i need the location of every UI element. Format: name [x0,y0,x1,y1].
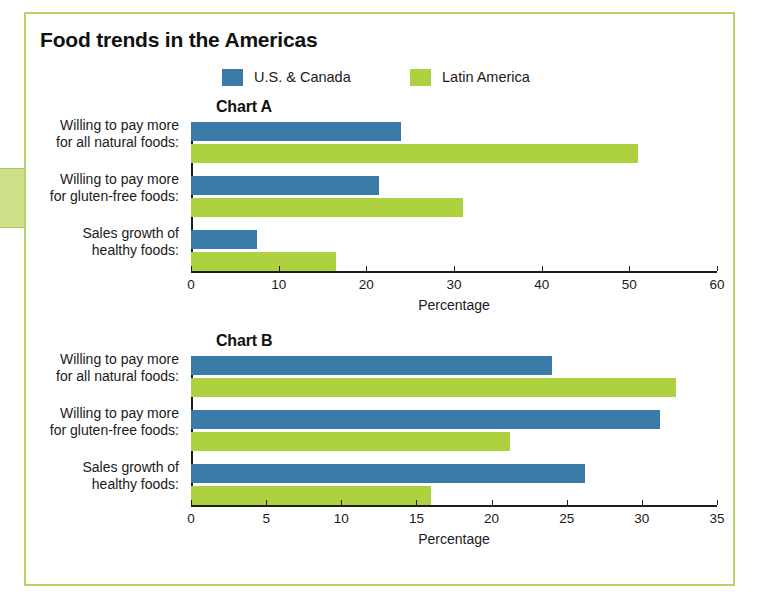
group-spacer [191,217,717,230]
bar-latin-america [191,144,638,163]
x-axis-title: Percentage [191,531,717,547]
x-axis-line [191,271,717,273]
group-spacer [191,163,717,176]
bar-latin-america [191,432,510,451]
bar-latin-america [191,486,431,505]
category-group: Willing to pay more for all natural food… [191,122,717,163]
x-axis-tick-label: 0 [187,511,195,526]
x-axis-tick-label: 35 [709,511,724,526]
x-axis-tick [717,500,718,505]
x-axis-tick [341,500,342,505]
chart-b-plot-area: Willing to pay more for all natural food… [191,356,717,505]
bar-us-canada [191,176,379,195]
x-axis-tick [416,500,417,505]
chart-b: Chart B Willing to pay more for all natu… [26,332,733,584]
x-axis-tick-label: 20 [484,511,499,526]
bar-us-canada [191,410,660,429]
page-title: Food trends in the Americas [40,28,317,52]
x-axis-tick-label: 15 [409,511,424,526]
figure-frame: Food trends in the Americas U.S. & Canad… [24,12,735,586]
x-axis-tick [266,500,267,505]
chart-b-title: Chart B [216,332,272,350]
category-group: Sales growth of healthy foods: [191,230,717,271]
x-axis-tick-label: 30 [634,511,649,526]
legend-label-us-canada: U.S. & Canada [254,69,351,85]
x-axis-tick [191,266,192,271]
bars-container: Willing to pay more for all natural food… [191,122,717,271]
x-axis-tick-label: 50 [622,277,637,292]
legend-item-us-canada: U.S. & Canada [222,66,351,88]
x-axis-title: Percentage [191,297,717,313]
category-label: Sales growth of healthy foods: [0,459,179,493]
chart-a-plot-area: Willing to pay more for all natural food… [191,122,717,271]
x-axis-tick [629,266,630,271]
category-group: Sales growth of healthy foods: [191,464,717,505]
bar-us-canada [191,230,257,249]
category-label: Willing to pay more for all natural food… [0,351,179,385]
category-label: Sales growth of healthy foods: [0,225,179,259]
bar-latin-america [191,378,676,397]
x-axis-tick [279,266,280,271]
chart-a: Chart A Willing to pay more for all natu… [26,98,733,344]
x-axis-tick-label: 40 [534,277,549,292]
x-axis-tick [542,266,543,271]
x-axis-tick-label: 60 [709,277,724,292]
x-axis-tick [717,266,718,271]
x-axis-tick-label: 30 [446,277,461,292]
category-group: Willing to pay more for all natural food… [191,356,717,397]
legend-item-latin-america: Latin America [410,66,530,88]
category-group: Willing to pay more for gluten-free food… [191,176,717,217]
chart-a-title: Chart A [216,98,272,116]
x-axis-tick-label: 10 [334,511,349,526]
group-spacer [191,397,717,410]
x-axis-tick [567,500,568,505]
bar-us-canada [191,464,585,483]
x-axis-tick-label: 10 [271,277,286,292]
x-axis-tick-label: 25 [559,511,574,526]
category-label: Willing to pay more for all natural food… [0,117,179,151]
x-axis-tick [454,266,455,271]
x-axis-tick-label: 0 [187,277,195,292]
x-axis-tick [492,500,493,505]
bars-container: Willing to pay more for all natural food… [191,356,717,505]
x-axis-tick-label: 5 [262,511,270,526]
bar-us-canada [191,122,401,141]
legend-swatch-us-canada [222,69,243,86]
category-label: Willing to pay more for gluten-free food… [0,405,179,439]
legend-swatch-latin-america [410,69,431,86]
x-axis-tick [366,266,367,271]
x-axis-line [191,505,717,507]
category-group: Willing to pay more for gluten-free food… [191,410,717,451]
x-axis-tick-label: 20 [359,277,374,292]
bar-us-canada [191,356,552,375]
group-spacer [191,451,717,464]
x-axis-tick [642,500,643,505]
x-axis-tick [191,500,192,505]
bar-latin-america [191,198,463,217]
category-label: Willing to pay more for gluten-free food… [0,171,179,205]
legend-label-latin-america: Latin America [442,69,530,85]
chart-legend: U.S. & Canada Latin America [222,66,692,88]
bar-latin-america [191,252,336,271]
